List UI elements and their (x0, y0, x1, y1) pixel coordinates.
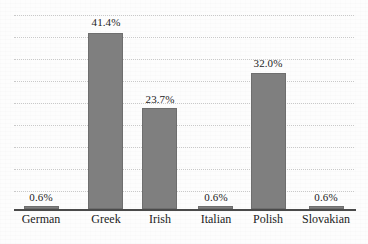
bar-irish[interactable] (142, 108, 177, 209)
gridline (14, 15, 354, 16)
bar-value-label: 41.4% (76, 16, 136, 28)
category-label-polish: Polish (238, 212, 298, 227)
bar-greek[interactable] (88, 33, 123, 209)
gridline (14, 169, 354, 170)
category-label-irish: Irish (130, 212, 190, 227)
bar-polish[interactable] (251, 73, 286, 209)
gridline (14, 37, 354, 38)
bar-value-label: 0.6% (296, 191, 356, 203)
bar-value-label: 23.7% (130, 93, 190, 105)
gridline (14, 59, 354, 60)
bar-value-label: 32.0% (238, 57, 298, 69)
x-axis-line (14, 209, 356, 211)
bar-value-label: 0.6% (11, 191, 71, 203)
category-axis: German Greek Irish Italian Polish Slovak… (0, 212, 368, 236)
bar-value-label: 0.6% (186, 191, 246, 203)
gridline (14, 81, 354, 82)
bar-chart: 0.6% 41.4% 23.7% 0.6% 32.0% 0.6% German … (0, 0, 368, 244)
category-label-greek: Greek (76, 212, 136, 227)
gridline (14, 125, 354, 126)
category-label-german: German (11, 212, 71, 227)
plot-area: 0.6% 41.4% 23.7% 0.6% 32.0% 0.6% (0, 0, 368, 211)
category-label-italian: Italian (186, 212, 246, 227)
gridline (14, 147, 354, 148)
category-label-slovakian: Slovakian (292, 212, 360, 227)
